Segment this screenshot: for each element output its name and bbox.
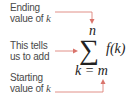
add-arrow (55, 49, 78, 54)
starting-arrow (55, 79, 106, 92)
summation-symbol: ∑ (79, 36, 99, 64)
lower-limit: k = m (75, 64, 108, 78)
summand: f(k) (106, 42, 125, 56)
